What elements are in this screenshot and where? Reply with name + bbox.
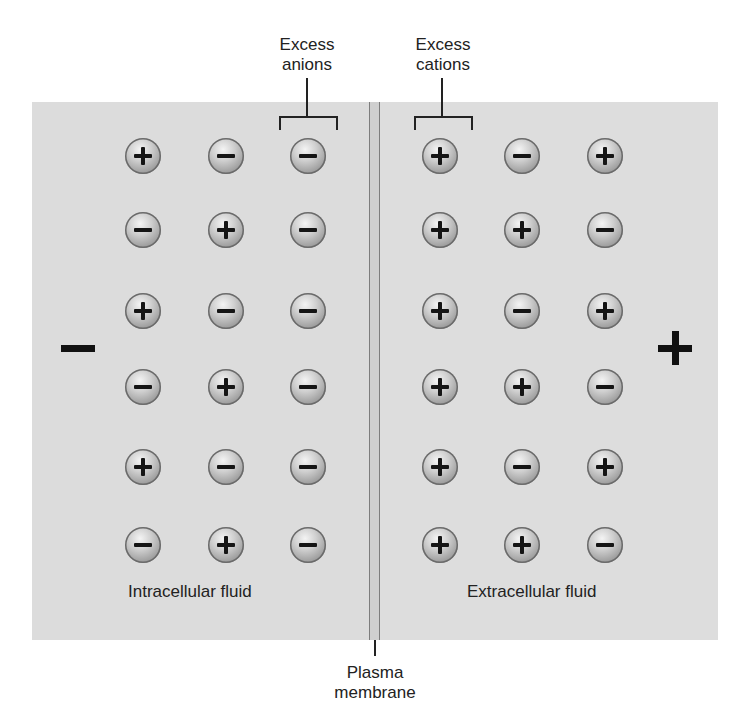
cation-icon: [208, 212, 244, 248]
cation-icon: [208, 527, 244, 563]
anion-icon: [290, 293, 326, 329]
anion-icon: [125, 369, 161, 405]
anion-icon: [125, 212, 161, 248]
anion-icon: [208, 293, 244, 329]
cation-icon: [422, 449, 458, 485]
anion-icon: [290, 369, 326, 405]
cation-icon: [504, 369, 540, 405]
cation-icon: [208, 369, 244, 405]
plasma-membrane-label: Plasma membrane: [315, 663, 435, 703]
anion-icon: [504, 449, 540, 485]
cation-icon: [587, 293, 623, 329]
anion-icon: [125, 527, 161, 563]
anion-icon: [290, 449, 326, 485]
intracellular-fluid-label: Intracellular fluid: [128, 582, 252, 602]
cation-icon: [125, 138, 161, 174]
cation-icon: [125, 293, 161, 329]
cation-icon: [422, 212, 458, 248]
anion-icon: [290, 138, 326, 174]
membrane-pointer-line: [374, 640, 376, 656]
cation-icon: [422, 527, 458, 563]
anion-icon: [290, 527, 326, 563]
anion-icon: [587, 527, 623, 563]
cation-icon: [587, 138, 623, 174]
cation-icon: [504, 212, 540, 248]
plasma-membrane: [369, 102, 380, 640]
anion-icon: [587, 369, 623, 405]
anion-icon: [504, 293, 540, 329]
cation-icon: [422, 293, 458, 329]
anion-icon: [290, 212, 326, 248]
anion-icon: [208, 138, 244, 174]
excess-anions-bracket: [279, 116, 338, 130]
excess-anions-bracket-stem: [306, 78, 308, 116]
anion-icon: [587, 212, 623, 248]
anion-icon: [208, 449, 244, 485]
anion-icon: [504, 138, 540, 174]
excess-cations-bracket: [414, 116, 473, 130]
cation-icon: [422, 369, 458, 405]
excess-cations-bracket-stem: [441, 78, 443, 116]
cation-icon: [422, 138, 458, 174]
cation-icon: [504, 527, 540, 563]
excess-anions-label: Excess anions: [247, 35, 367, 75]
cation-icon: [125, 449, 161, 485]
cation-icon: [587, 449, 623, 485]
extracellular-fluid-label: Extracellular fluid: [467, 582, 596, 602]
excess-cations-label: Excess cations: [383, 35, 503, 75]
